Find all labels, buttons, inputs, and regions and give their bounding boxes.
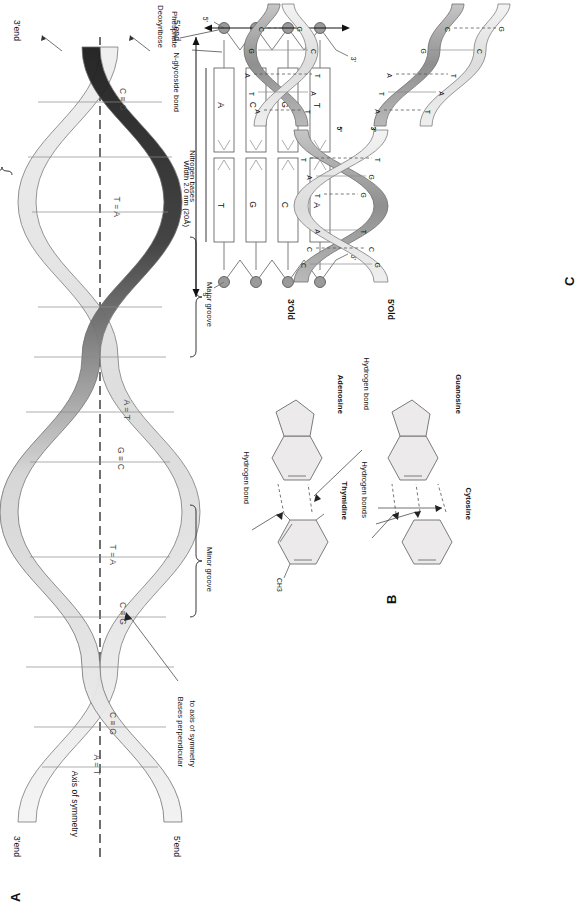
adenosine-label: Adenosine	[336, 375, 345, 414]
panel-c-base: G	[374, 263, 381, 268]
panel-c-base: T	[374, 158, 381, 162]
panel-c-base: G	[360, 193, 367, 198]
panel-c-letter: C	[562, 277, 577, 286]
panel-c-base: T	[378, 92, 385, 96]
n-glycoside-bond-label: N-glycoside bond	[172, 52, 181, 112]
panel-c-base: A	[310, 91, 317, 96]
panel-c-base: C	[310, 49, 317, 54]
panel-c-base: C	[306, 247, 313, 252]
hydrogen-bond-label-top: Hydrogen bond	[242, 451, 251, 504]
panel-c-base: G	[248, 49, 255, 54]
panel-a-basepair: A = T	[122, 400, 132, 420]
panel-c-base: C	[258, 27, 265, 32]
panel-c-base: T	[424, 110, 431, 114]
panel-c-base: C	[476, 49, 483, 54]
panel-a-callout-line2: to axis of symmetry	[188, 701, 197, 768]
panel-c-base: G	[368, 175, 375, 180]
panel-c-label-state: Old	[286, 306, 296, 320]
panel-c-base: A	[314, 229, 321, 234]
panel-c-base: T	[304, 110, 311, 114]
panel-c-base: C	[444, 27, 451, 32]
panel-a-basepair: C ≡ G	[118, 602, 128, 625]
panel-c-base: C	[300, 263, 307, 268]
panel-a-callout-line1: Bases perpendicular	[176, 697, 185, 767]
panel-b-letter: B	[384, 595, 399, 604]
panel-a-end-3-right: 3'end	[12, 20, 22, 41]
panel-c: 3' Old 5' Old 5' Old 3' New 5' New 3' Ol…	[224, 0, 580, 290]
panel-c-base: T	[248, 92, 255, 96]
nitrogen-bases-label: Nitrogen bases	[188, 150, 197, 202]
panel-c-base: T	[450, 74, 457, 78]
panel-a-basepair: T = A	[108, 545, 118, 565]
backbone-end-5-right: 5'	[202, 17, 209, 22]
panel-b-pair-gc: Hydrogen bonds Guanosine Cytosine	[370, 400, 520, 600]
phosphate-label: Phosphate	[170, 11, 179, 48]
guanosine-label: Guanosine	[454, 374, 463, 414]
panel-c-base: T	[314, 74, 321, 78]
panel-a-axis-label: Axis of symmetry	[70, 771, 80, 837]
panel-c-base: T	[360, 230, 367, 234]
methyl-label: CH3	[276, 578, 283, 592]
panel-a-letter: A	[8, 893, 23, 902]
panel-a: Axis of symmetry 3'end 5'end 3'end 5'end…	[0, 0, 200, 917]
panel-c-base: A	[438, 91, 445, 96]
panel-c-label-state: Old	[386, 306, 396, 320]
hydrogen-bonds-label: Hydrogen bonds	[360, 462, 369, 518]
panel-c-base: T	[300, 158, 307, 162]
panel-c-fork-prime-top: 5'	[336, 126, 343, 132]
panel-a-end-5-left: 5'end	[172, 836, 182, 857]
panel-a-minor-groove-label: Minor groove	[205, 547, 214, 592]
thymidine-label: Thymidine	[340, 482, 349, 520]
figure-canvas: Axis of symmetry 3'end 5'end 3'end 5'end…	[0, 0, 580, 917]
panel-c-base: A	[254, 109, 261, 114]
panel-c-base: G	[498, 27, 505, 32]
panel-a-basepair: C ≡ G	[108, 712, 118, 735]
panel-c-base: T	[314, 194, 321, 198]
panel-c-base: A	[374, 109, 381, 114]
panel-a-basepair: A = T	[92, 755, 102, 775]
panel-a-end-3-left: 3'end	[12, 836, 22, 857]
panel-a-basepair: G ≡ C	[116, 447, 126, 470]
panel-a-basepair: T = A	[112, 197, 122, 217]
cytosine-label: Cytosine	[464, 488, 473, 520]
panel-c-base: G	[296, 27, 303, 32]
panel-c-base: A	[306, 175, 313, 180]
panel-c-base: G	[420, 49, 427, 54]
backbone-end-3-left: 3'	[202, 293, 209, 298]
panel-c-fork-prime-bottom: 3'	[370, 126, 377, 132]
panel-c-base: A	[244, 73, 251, 78]
panel-c-base: C	[368, 247, 375, 252]
panel-a-basepair: C ≡ G	[118, 88, 128, 111]
panel-c-base: A	[386, 73, 393, 78]
deoxyribose-label: Deoxyribose	[156, 5, 165, 48]
